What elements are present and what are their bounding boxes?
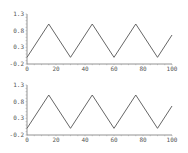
x-tick-label: 40 xyxy=(81,136,89,143)
series-line xyxy=(27,95,172,128)
y-tick-label: -0.2 xyxy=(10,60,25,67)
y-tick-label: 0.3 xyxy=(13,43,24,50)
y-tick-label: -0.2 xyxy=(10,131,25,138)
series-line xyxy=(27,24,172,57)
x-tick-label: 40 xyxy=(81,65,89,72)
x-tick-label: 0 xyxy=(25,65,29,72)
x-tick-label: 60 xyxy=(110,65,118,72)
charts-canvas: -0.20.30.81.3020406080100-0.20.30.81.302… xyxy=(0,0,188,153)
x-tick-label: 0 xyxy=(25,136,29,143)
x-tick-label: 60 xyxy=(110,136,118,143)
chart-1: -0.20.30.81.3020406080100 xyxy=(10,10,178,72)
x-tick-label: 80 xyxy=(139,65,147,72)
y-tick-label: 1.3 xyxy=(13,10,24,17)
x-tick-label: 80 xyxy=(139,136,147,143)
y-tick-label: 0.8 xyxy=(13,27,24,34)
y-tick-label: 0.8 xyxy=(13,98,24,105)
chart-2: -0.20.30.81.3020406080100 xyxy=(10,81,178,143)
x-tick-label: 100 xyxy=(167,136,178,143)
y-tick-label: 1.3 xyxy=(13,81,24,88)
x-tick-label: 20 xyxy=(52,65,60,72)
y-tick-label: 0.3 xyxy=(13,114,24,121)
x-tick-label: 20 xyxy=(52,136,60,143)
x-tick-label: 100 xyxy=(167,65,178,72)
